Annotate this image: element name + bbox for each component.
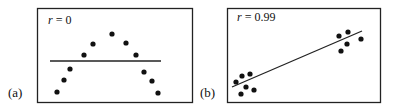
data-point <box>345 29 350 34</box>
r-symbol: r <box>237 10 242 24</box>
data-point <box>109 31 114 36</box>
data-point <box>247 71 252 76</box>
data-point <box>67 66 72 71</box>
data-point <box>233 79 238 84</box>
data-point <box>239 73 244 78</box>
panel-b-points <box>233 29 363 96</box>
data-point <box>123 40 128 45</box>
data-point <box>344 41 349 46</box>
data-point <box>336 33 341 38</box>
data-point <box>238 91 243 96</box>
data-point <box>61 77 66 82</box>
data-point <box>133 52 138 57</box>
panel-b-annotation: r = 0.99 <box>237 10 275 25</box>
data-point <box>243 84 248 89</box>
data-point <box>358 36 363 41</box>
data-point <box>149 78 154 83</box>
panel-b-fit-line <box>232 31 362 87</box>
panel-a-label: (a) <box>8 85 22 101</box>
panel-a-points <box>54 31 160 95</box>
data-point <box>90 41 95 46</box>
r-value: = 0.99 <box>245 10 276 24</box>
data-point <box>338 48 343 53</box>
data-point <box>251 87 256 92</box>
data-point <box>54 89 59 94</box>
r-value: = 0 <box>56 13 72 27</box>
data-point <box>81 52 86 57</box>
panel-a-annotation: r = 0 <box>48 13 71 28</box>
data-point <box>155 90 160 95</box>
data-point <box>141 69 146 74</box>
panel-b-label: (b) <box>200 85 215 101</box>
r-symbol: r <box>48 13 53 27</box>
